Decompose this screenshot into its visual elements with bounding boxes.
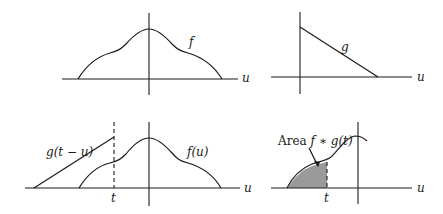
g-label: g bbox=[341, 40, 349, 54]
t-label: t bbox=[111, 191, 116, 205]
g-line bbox=[300, 27, 378, 77]
u-axis-label: u bbox=[244, 181, 252, 195]
t-label: t bbox=[324, 191, 329, 205]
panel-area: Area f ∗ g(t) u t bbox=[271, 122, 425, 205]
u-axis-label: u bbox=[242, 71, 250, 85]
area-prefix: Area bbox=[277, 134, 310, 148]
u-axis-label: u bbox=[417, 181, 425, 195]
area-expr: f ∗ g(t) bbox=[309, 134, 352, 148]
convolution-diagram: f u g u g(t − u) f(u) u t Area f ∗ g(t) … bbox=[0, 0, 443, 214]
g-shifted-label: g(t − u) bbox=[46, 145, 94, 159]
f-curve bbox=[78, 29, 222, 79]
panel-g: g u bbox=[271, 12, 425, 94]
panel-overlap: g(t − u) f(u) u t bbox=[25, 122, 252, 206]
u-axis-label: u bbox=[417, 70, 425, 84]
area-label: Area f ∗ g(t) bbox=[277, 134, 353, 148]
f-label: f bbox=[188, 35, 196, 49]
panel-f: f u bbox=[62, 13, 250, 95]
f-u-label: f(u) bbox=[186, 145, 209, 159]
